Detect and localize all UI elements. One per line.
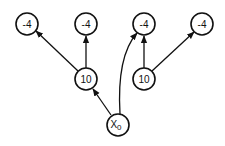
leaf-node-2: -4 — [75, 13, 97, 35]
leaf-node-3: -4 — [133, 13, 155, 35]
leaf-node-4: -4 — [191, 13, 213, 35]
middle-node-2: 10 — [133, 68, 155, 90]
edge-m2-to-n4 — [152, 32, 194, 71]
edge-m1-to-n1 — [36, 31, 78, 71]
leaf-node-4-label: -4 — [198, 19, 207, 30]
middle-node-1: 10 — [75, 68, 97, 90]
leaf-node-3-label: -4 — [140, 19, 149, 30]
root-node: X0 — [107, 114, 129, 136]
edge-root-to-m1 — [93, 89, 111, 115]
middle-node-1-label: 10 — [80, 74, 92, 85]
leaf-node-1: -4 — [16, 13, 38, 35]
leaf-node-2-label: -4 — [82, 19, 91, 30]
tree-diagram: -4 -4 -4 -4 10 10 X0 — [0, 0, 225, 146]
root-node-subscript: 0 — [117, 123, 122, 132]
leaf-node-1-label: -4 — [23, 19, 32, 30]
middle-node-2-label: 10 — [138, 74, 150, 85]
